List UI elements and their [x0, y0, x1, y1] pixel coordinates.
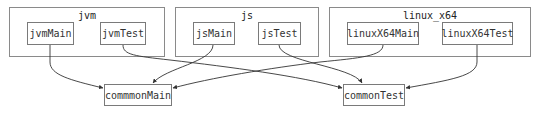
node-common-test: commonTest: [343, 84, 405, 106]
node-linux-x64-test: linuxX64Test: [442, 22, 513, 45]
frame-label-linux-x64: linux_x64: [330, 10, 530, 22]
source-set-diagram: jvm js linux_x64 jvmMain jvmTest jsMain …: [0, 0, 537, 115]
node-js-test: jsTest: [258, 22, 301, 45]
node-linux-x64-main: linuxX64Main: [347, 22, 419, 45]
node-jvm-test: jvmTest: [100, 22, 146, 45]
node-jvm-main: jvmMain: [27, 22, 74, 45]
node-common-main: commmonMain: [104, 84, 172, 106]
frame-label-jvm: jvm: [10, 10, 164, 22]
frame-label-js: js: [176, 10, 318, 22]
node-js-main: jsMain: [193, 22, 235, 45]
